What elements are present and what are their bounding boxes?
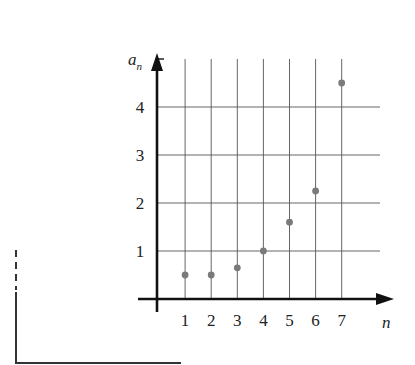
x-tick-label: 4 xyxy=(259,311,268,330)
x-tick-label: 3 xyxy=(233,311,242,330)
y-axis-label-main: a xyxy=(128,50,137,69)
x-tick-label: 7 xyxy=(337,311,346,330)
y-axis-label: an xyxy=(128,50,143,72)
vertical-gridlines xyxy=(185,59,342,299)
data-point xyxy=(182,272,189,279)
y-tick-label: 4 xyxy=(136,98,145,117)
y-tick-labels: 1234 xyxy=(136,98,145,261)
x-tick-labels: 1234567 xyxy=(181,311,347,330)
x-axis-arrow-icon xyxy=(376,293,394,305)
data-point xyxy=(234,264,241,271)
y-axis-label-subscript: n xyxy=(137,60,143,72)
data-point xyxy=(208,272,215,279)
data-point xyxy=(338,80,345,87)
x-tick-label: 2 xyxy=(207,311,216,330)
x-tick-label: 1 xyxy=(181,311,190,330)
data-point xyxy=(260,248,267,255)
sequence-plot: 1234 1234567 n an xyxy=(0,0,415,365)
y-tick-label: 2 xyxy=(136,194,145,213)
data-point xyxy=(312,188,319,195)
data-point xyxy=(286,219,293,226)
y-tick-label: 1 xyxy=(136,242,145,261)
x-axis-label: n xyxy=(382,313,391,332)
y-axis-arrow-icon xyxy=(151,53,163,71)
horizontal-gridlines xyxy=(157,107,380,251)
x-tick-label: 6 xyxy=(311,311,320,330)
x-tick-label: 5 xyxy=(285,311,294,330)
y-tick-label: 3 xyxy=(136,146,145,165)
